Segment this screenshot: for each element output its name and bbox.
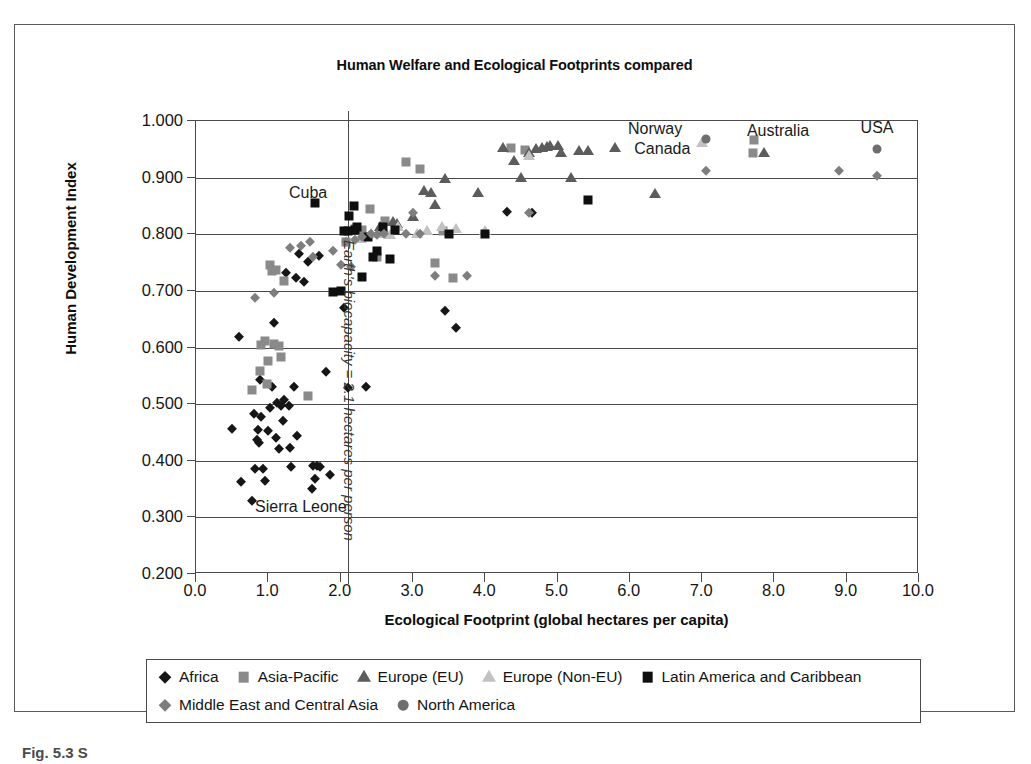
legend-entry[interactable]: Latin America and Caribbean — [640, 668, 862, 686]
country-label: Sierra Leone — [255, 498, 347, 516]
y-axis-tick-label: 0.600 — [111, 337, 183, 356]
data-point — [248, 385, 257, 394]
data-point — [425, 187, 437, 197]
data-point — [299, 277, 309, 287]
gridline — [196, 234, 917, 235]
data-point — [269, 317, 279, 327]
chart-title: Human Welfare and Ecological Footprints … — [15, 57, 1014, 73]
biocapacity-annotation: Earth's biocapacity = 2.1 hectares per p… — [341, 240, 358, 541]
legend-label: Latin America and Caribbean — [662, 668, 862, 686]
legend-label: Europe (EU) — [378, 668, 464, 686]
y-axis-tick-mark — [187, 290, 196, 291]
data-point — [872, 171, 882, 181]
legend-label: Middle East and Central Asia — [179, 696, 378, 714]
data-point — [372, 247, 381, 256]
x-axis-tick-label: 2.0 — [305, 581, 375, 600]
legend-row: AfricaAsia-PacificEurope (EU)Europe (Non… — [157, 665, 878, 689]
data-point — [275, 342, 284, 351]
data-point — [448, 274, 457, 283]
legend-entry[interactable]: Europe (EU) — [356, 668, 464, 686]
marker-circle — [398, 700, 409, 711]
legend-entry[interactable]: Africa — [157, 668, 219, 686]
data-point — [352, 223, 361, 232]
data-point — [582, 145, 594, 155]
data-point — [555, 147, 567, 157]
data-point — [429, 199, 441, 209]
y-axis-tick-labels: 1.0000.9000.8000.7000.6000.5000.4000.300… — [107, 120, 183, 573]
x-axis-tick-mark — [267, 573, 268, 582]
data-point — [253, 424, 263, 434]
y-axis-tick-label: 0.900 — [111, 167, 183, 186]
data-point — [349, 201, 358, 210]
marker-square — [238, 672, 249, 683]
data-point — [277, 352, 286, 361]
data-point — [497, 142, 509, 152]
figure-frame: Human Welfare and Ecological Footprints … — [14, 24, 1015, 712]
legend-entry[interactable]: Middle East and Central Asia — [157, 696, 378, 714]
data-point — [278, 416, 288, 426]
y-axis-tick-label: 0.300 — [111, 507, 183, 526]
data-point — [515, 172, 527, 182]
x-axis-tick-mark — [773, 573, 774, 582]
data-point — [292, 431, 302, 441]
x-axis-tick-label: 10.0 — [883, 581, 953, 600]
data-point — [502, 206, 512, 216]
legend-label: Europe (Non-EU) — [503, 668, 623, 686]
data-point — [385, 254, 394, 263]
plot-area: CubaSierra LeoneNorwayCanadaAustraliaUSA… — [195, 120, 918, 573]
x-axis-tick-label: 4.0 — [449, 581, 519, 600]
y-axis-tick-mark — [187, 120, 196, 121]
x-axis-tick-label: 7.0 — [666, 581, 736, 600]
legend-row: Middle East and Central AsiaNorth Americ… — [157, 693, 532, 717]
y-axis-tick-mark — [187, 177, 196, 178]
x-axis-tick-label: 3.0 — [377, 581, 447, 600]
data-point — [307, 484, 317, 494]
x-axis-tick-mark — [484, 573, 485, 582]
country-label: Cuba — [289, 184, 327, 202]
data-point — [358, 272, 367, 281]
figure-caption: Fig. 5.3 S — [22, 744, 88, 761]
x-axis-tick-label: 1.0 — [232, 581, 302, 600]
data-point — [285, 243, 295, 253]
data-point — [286, 462, 296, 472]
data-point — [649, 188, 661, 198]
data-point — [227, 424, 237, 434]
y-axis-title: Human Development Index — [62, 49, 79, 469]
data-point — [416, 165, 425, 174]
data-point — [834, 166, 844, 176]
data-point — [758, 147, 770, 157]
y-axis-tick-label: 1.000 — [111, 111, 183, 130]
x-axis-tick-label: 8.0 — [738, 581, 808, 600]
data-point — [234, 332, 244, 342]
legend-entry[interactable]: North America — [395, 696, 515, 714]
country-label: USA — [861, 119, 894, 137]
gridline — [196, 404, 917, 405]
y-axis-tick-label: 0.400 — [111, 450, 183, 469]
country-label: Australia — [747, 122, 809, 140]
x-axis-tick-mark — [195, 573, 196, 582]
legend-swatch — [481, 669, 497, 685]
data-point — [390, 226, 399, 235]
country-label: Canada — [634, 140, 690, 158]
data-point — [288, 381, 298, 391]
legend-label: Africa — [179, 668, 219, 686]
x-axis-tick-label: 0.0 — [160, 581, 230, 600]
data-point — [430, 258, 439, 267]
data-point — [250, 293, 260, 303]
marker-diamond — [159, 699, 171, 711]
data-point — [255, 366, 264, 375]
x-axis-tick-mark — [701, 573, 702, 582]
data-point — [285, 443, 295, 453]
data-point — [523, 150, 535, 160]
data-point — [429, 271, 439, 281]
gridline — [196, 461, 917, 462]
data-point — [236, 477, 246, 487]
marker-square — [642, 672, 653, 683]
y-axis-tick-mark — [187, 460, 196, 461]
legend-entry[interactable]: Europe (Non-EU) — [481, 668, 623, 686]
data-point — [270, 432, 280, 442]
x-axis-tick-mark — [629, 573, 630, 582]
data-point — [328, 246, 338, 256]
legend-entry[interactable]: Asia-Pacific — [236, 668, 339, 686]
data-point — [481, 230, 490, 239]
